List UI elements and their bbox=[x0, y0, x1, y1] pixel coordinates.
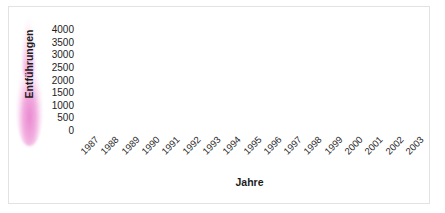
plot-background bbox=[77, 30, 422, 131]
y-tick-label: 500 bbox=[40, 113, 74, 123]
x-axis-tick-labels: 1987198819891990199119921993199419951996… bbox=[77, 134, 422, 174]
y-tick-label: 1500 bbox=[40, 88, 74, 98]
y-tick-label: 1000 bbox=[40, 101, 74, 111]
y-axis-tick-labels: 05001000150020002500300035004000 bbox=[38, 30, 74, 131]
y-tick-label: 3500 bbox=[40, 38, 74, 48]
y-tick-label: 2000 bbox=[40, 76, 74, 86]
x-axis-title: Jahre bbox=[77, 176, 422, 188]
y-tick-label: 0 bbox=[40, 126, 74, 136]
plot-area bbox=[77, 30, 422, 131]
y-axis-title: Entführungen bbox=[23, 8, 35, 120]
y-tick-label: 2500 bbox=[40, 63, 74, 73]
y-tick-label: 4000 bbox=[40, 25, 74, 35]
y-tick-label: 3000 bbox=[40, 50, 74, 60]
chart-figure: Entführungen 050010001500200025003000350… bbox=[0, 0, 445, 213]
